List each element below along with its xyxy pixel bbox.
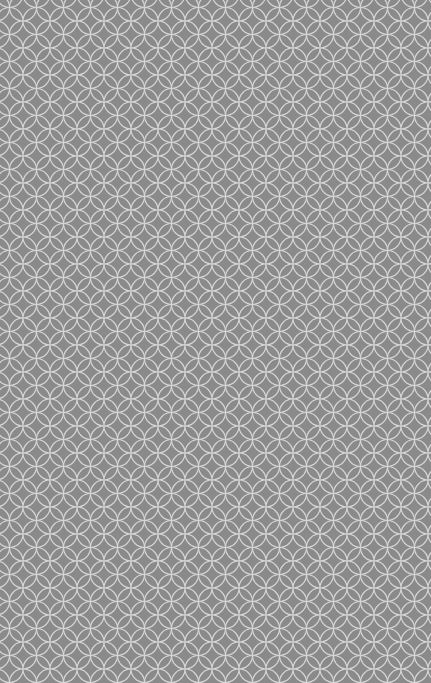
- circle-pattern-background: [0, 0, 431, 683]
